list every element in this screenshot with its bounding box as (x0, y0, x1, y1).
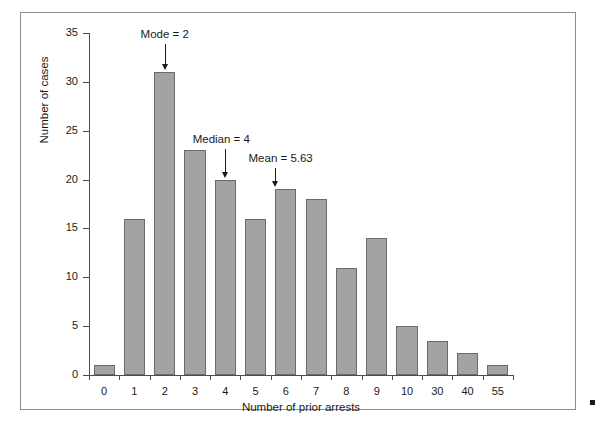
annotation-arrow-shaft (165, 44, 166, 64)
annotation-arrow-head (222, 172, 228, 178)
y-tick-mark (83, 277, 89, 278)
y-tick-label: 10 (52, 271, 78, 282)
x-tick-mark (362, 375, 363, 380)
annotation-arrow-shaft (275, 168, 276, 181)
y-axis-line (89, 33, 90, 376)
annotation-label: Mean = 5.63 (249, 152, 313, 164)
y-tick-mark (83, 131, 89, 132)
corner-marker-dot (590, 400, 595, 405)
x-tick-label: 5 (241, 385, 271, 397)
x-tick-mark (513, 375, 514, 380)
y-tick-label: 5 (52, 320, 78, 331)
bar (215, 180, 236, 375)
x-tick-mark (422, 375, 423, 380)
y-tick-label-wrap: 5 (50, 320, 78, 331)
bar (124, 219, 145, 375)
x-tick-mark (240, 375, 241, 380)
bar (306, 199, 327, 375)
y-tick-label-wrap: 20 (50, 174, 78, 185)
x-tick-label: 4 (210, 385, 240, 397)
x-tick-label: 40 (453, 385, 483, 397)
annotation-arrow-head (272, 181, 278, 187)
x-tick-label: 1 (119, 385, 149, 397)
x-tick-mark (180, 375, 181, 380)
x-tick-mark (301, 375, 302, 380)
annotation-label: Median = 4 (193, 133, 250, 145)
bar (427, 341, 448, 375)
plot-area: 05101520253035 012345678910304055 Mode =… (0, 0, 601, 442)
x-tick-label: 30 (422, 385, 452, 397)
x-tick-mark (271, 375, 272, 380)
x-tick-label: 9 (362, 385, 392, 397)
x-tick-label: 2 (150, 385, 180, 397)
bar (275, 189, 296, 375)
x-tick-label: 6 (271, 385, 301, 397)
y-tick-label: 0 (52, 369, 78, 380)
bar (457, 353, 478, 375)
y-tick-label: 25 (52, 125, 78, 136)
y-tick-label: 20 (52, 174, 78, 185)
y-tick-label-wrap: 0 (50, 369, 78, 380)
y-tick-mark (83, 228, 89, 229)
y-tick-label-wrap: 10 (50, 271, 78, 282)
bar (396, 326, 417, 375)
bar (336, 268, 357, 375)
x-tick-mark (452, 375, 453, 380)
x-tick-mark (483, 375, 484, 380)
y-tick-label-wrap: 35 (50, 27, 78, 38)
y-axis-title: Number of cases (38, 40, 50, 160)
annotation-arrow-shaft (225, 149, 226, 172)
y-tick-label-wrap: 15 (50, 222, 78, 233)
y-tick-label-wrap: 30 (50, 76, 78, 87)
y-tick-label: 15 (52, 222, 78, 233)
x-tick-mark (150, 375, 151, 380)
x-tick-mark (210, 375, 211, 380)
y-tick-mark (83, 180, 89, 181)
y-tick-mark (83, 82, 89, 83)
x-axis-title: Number of prior arrests (89, 401, 513, 413)
y-tick-label: 35 (52, 27, 78, 38)
x-tick-mark (331, 375, 332, 380)
annotation-arrow-head (162, 64, 168, 70)
bar (245, 219, 266, 375)
y-tick-label-wrap: 25 (50, 125, 78, 136)
histogram-figure: 05101520253035 012345678910304055 Mode =… (0, 0, 601, 442)
bar (154, 72, 175, 375)
x-tick-mark (119, 375, 120, 380)
x-tick-mark (89, 375, 90, 380)
x-tick-label: 0 (89, 385, 119, 397)
x-tick-mark (392, 375, 393, 380)
annotation-label: Mode = 2 (141, 28, 189, 40)
x-tick-label: 55 (483, 385, 513, 397)
bar (94, 365, 115, 375)
y-tick-mark (83, 33, 89, 34)
bar (487, 365, 508, 375)
x-tick-label: 10 (392, 385, 422, 397)
x-tick-label: 8 (331, 385, 361, 397)
bar (366, 238, 387, 375)
y-tick-label: 30 (52, 76, 78, 87)
y-tick-mark (83, 326, 89, 327)
bar (184, 150, 205, 375)
x-tick-label: 3 (180, 385, 210, 397)
x-tick-label: 7 (301, 385, 331, 397)
